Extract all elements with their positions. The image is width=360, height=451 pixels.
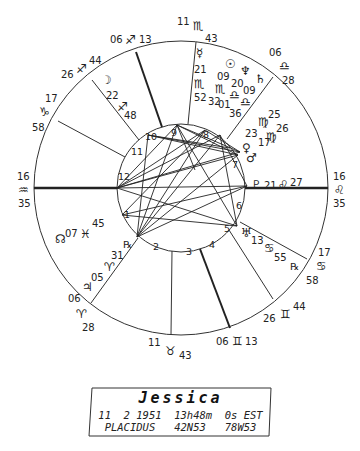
cusp-label-3: 11 ♉ 43 [148,337,192,361]
cusp-line-ic [200,249,230,328]
inner-house-num-7: 7 [232,159,238,170]
planet-moon: ☽ 22 ♐ 48 [101,73,137,121]
cusp-label-1: 16 ♒ 35 [17,171,31,209]
inner-house-num-11: 11 [131,146,143,157]
svg-text:♓: ♓ [80,227,91,241]
inner-house-num-9: 9 [171,127,177,138]
svg-text:17: 17 [318,247,331,258]
retrograde-icon: ℞ [290,261,299,272]
svg-text:♎: ♎ [240,95,251,109]
cusp-line-12 [58,121,125,157]
svg-text:♐: ♐ [76,62,87,76]
svg-text:55: 55 [274,252,287,263]
inner-house-num-8: 8 [203,129,209,140]
svg-text:♉: ♉ [165,344,176,358]
cusp-label-9: 11 ♏ 43 [177,16,218,44]
svg-text:28: 28 [282,75,295,86]
svg-text:48: 48 [124,110,137,121]
svg-text:27: 27 [290,177,303,188]
svg-text:♏: ♏ [215,82,226,96]
svg-text:☉: ☉ [225,57,236,71]
svg-text:06: 06 [269,47,282,58]
planet-north-node: ☊ 07 ♓ 45 [55,218,105,246]
svg-text:26: 26 [61,69,74,80]
svg-text:06: 06 [216,336,229,347]
svg-text:35: 35 [333,198,346,209]
svg-text:52: 52 [194,92,207,103]
svg-text:♆: ♆ [240,64,251,78]
svg-text:11: 11 [177,16,190,27]
svg-text:07: 07 [65,228,78,239]
natal-chart-wheel: 1 2 3 4 5 6 7 8 9 10 11 12 16 ♒ 35 16 ♌ … [0,0,360,451]
svg-text:36: 36 [229,108,242,119]
planet-mercury: ☿ 21 ♏ 52 [194,46,207,103]
svg-text:43: 43 [179,350,192,361]
svg-text:45: 45 [92,218,105,229]
inner-house-num-6: 6 [236,200,242,211]
svg-text:♐: ♐ [125,33,136,47]
svg-text:☿: ☿ [196,46,203,60]
svg-text:58: 58 [306,275,319,286]
cusp-line-3 [171,251,172,335]
inner-house-num-10: 10 [145,131,157,142]
svg-text:13: 13 [139,34,152,45]
svg-text:58: 58 [32,122,45,133]
house-system-location: PLACIDUS 42N53 78W53 [88,421,273,433]
svg-text:06: 06 [68,293,81,304]
svg-text:16: 16 [17,171,30,182]
svg-text:♌: ♌ [278,178,289,192]
svg-text:17: 17 [45,93,58,104]
svg-text:05: 05 [91,272,104,283]
svg-text:23: 23 [245,128,258,139]
svg-text:☽: ☽ [101,73,112,87]
cusp-label-7: 16 ♌ 35 [333,171,346,209]
svg-text:♌: ♌ [334,183,345,197]
svg-text:09: 09 [217,71,230,82]
inner-house-num-3: 3 [186,246,192,257]
svg-text:26: 26 [276,123,289,134]
cusp-label-10: 06 ♐ 13 [110,33,152,47]
svg-text:26: 26 [263,313,276,324]
svg-text:25: 25 [268,109,281,120]
svg-text:♒: ♒ [18,183,29,197]
cusp-label-4: 06 ♊ 13 [216,334,258,348]
svg-text:21: 21 [194,64,207,75]
svg-text:44: 44 [89,55,102,66]
cusp-label-12: 17 ♑ 58 [32,93,58,133]
svg-text:44: 44 [293,301,306,312]
inner-house-num-2: 2 [153,241,159,252]
svg-text:♈: ♈ [104,260,115,274]
svg-text:♊: ♊ [280,307,291,321]
svg-text:11: 11 [148,337,161,348]
inner-house-num-5: 5 [224,223,230,234]
svg-text:♂: ♂ [246,151,257,165]
birth-date-time: 11 2 1951 13h48m 0s EST [88,409,273,421]
svg-text:♈: ♈ [76,307,87,321]
svg-text:35: 35 [18,198,31,209]
svg-text:13: 13 [251,235,264,246]
planet-jupiter: ♃ 05 ♈ 31 ℞ [82,239,132,294]
svg-text:♊: ♊ [232,334,243,348]
svg-text:♏: ♏ [193,19,204,33]
svg-text:28: 28 [82,322,95,333]
svg-text:♄: ♄ [255,72,266,86]
inner-house-num-12: 12 [118,171,130,182]
cusp-label-6: 17 ♋ 58 [306,247,331,286]
cusp-label-5: 26 ♊ 44 [263,301,306,324]
cusp-label-8: 06 ♎ 28 [269,47,295,86]
cusp-line-mc [136,52,162,127]
svg-text:31: 31 [111,250,124,261]
cusp-label-11: 26 ♐ 44 [61,55,102,80]
retrograde-icon: ℞ [123,239,132,250]
svg-text:21: 21 [264,180,277,191]
inner-house-num-4: 4 [209,239,215,250]
svg-text:06: 06 [110,34,123,45]
svg-text:16: 16 [333,171,346,182]
birth-info-box: Jessica 11 2 1951 13h48m 0s EST PLACIDUS… [88,387,273,437]
svg-text:♑: ♑ [39,105,50,119]
cusp-label-2: 06 ♈ 28 [68,293,95,333]
planet-pluto: ♇ 21 ♌ 27 [251,177,303,192]
inner-house-num-1: 1 [124,209,130,220]
chart-name: Jessica [88,389,273,407]
svg-text:43: 43 [205,33,218,44]
